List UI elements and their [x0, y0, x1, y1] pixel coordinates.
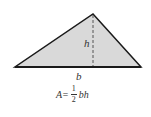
fraction-numerator: 1	[71, 85, 77, 95]
formula-lhs: A=	[56, 89, 69, 100]
fraction-denominator: 2	[72, 95, 76, 104]
height-label: h	[84, 38, 90, 49]
triangle-area-diagram: h b A= 1 2 bh	[0, 0, 151, 117]
triangle-shape	[15, 14, 141, 67]
base-label: b	[76, 71, 82, 82]
formula-fraction: 1 2	[71, 85, 77, 104]
area-formula: A= 1 2 bh	[56, 85, 89, 104]
formula-rhs: bh	[79, 89, 89, 100]
